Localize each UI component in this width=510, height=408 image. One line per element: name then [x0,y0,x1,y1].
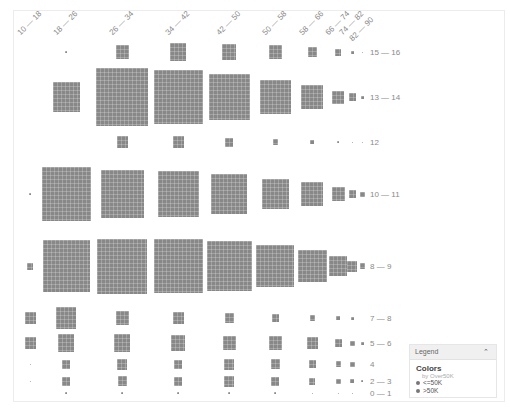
data-block[interactable] [174,377,182,386]
data-block[interactable] [352,142,353,143]
data-block[interactable] [308,47,317,57]
data-block[interactable] [335,49,341,56]
data-block[interactable] [118,376,127,386]
data-block[interactable] [307,337,318,349]
data-block[interactable] [312,393,313,394]
row-label: 8 — 9 [370,262,391,271]
data-block[interactable] [154,239,203,293]
data-block[interactable] [173,312,184,324]
data-block[interactable] [351,51,354,54]
legend-item-gt50k[interactable]: >50K [410,387,496,395]
data-block[interactable] [350,362,355,367]
data-block[interactable] [56,307,76,329]
data-block[interactable] [301,182,323,206]
data-block[interactable] [309,360,316,368]
data-block[interactable] [336,316,340,320]
data-block[interactable] [332,91,344,104]
data-block[interactable] [62,360,70,369]
legend-item-le50k[interactable]: <=50K [410,379,496,387]
data-block[interactable] [335,339,342,347]
data-block[interactable] [272,314,279,322]
data-block[interactable] [301,85,323,109]
data-block[interactable] [361,342,364,345]
data-block[interactable] [310,140,314,144]
data-block[interactable] [361,380,363,382]
data-block[interactable] [43,240,90,292]
data-block[interactable] [228,392,230,394]
data-block[interactable] [360,263,365,269]
data-block[interactable] [352,393,353,394]
data-block[interactable] [224,359,234,370]
data-block[interactable] [349,190,356,198]
data-block[interactable] [298,250,327,282]
row-label: 4 [370,360,374,369]
data-block[interactable] [350,379,354,383]
data-block[interactable] [209,74,250,120]
data-block[interactable] [271,359,280,369]
data-block[interactable] [117,136,128,148]
data-block[interactable] [42,167,91,221]
legend-header[interactable]: Legend ⌃ [410,345,496,360]
data-block[interactable] [25,312,36,324]
data-block[interactable] [225,138,233,147]
data-block[interactable] [332,187,345,201]
data-block[interactable] [27,263,33,270]
data-block[interactable] [25,337,36,349]
data-block[interactable] [62,377,70,386]
data-block[interactable] [114,334,130,352]
data-block[interactable] [361,96,364,99]
data-block[interactable] [30,381,31,382]
data-block[interactable] [338,393,339,394]
data-block[interactable] [349,93,356,101]
data-block[interactable] [271,377,279,386]
data-block[interactable] [96,68,148,126]
data-block[interactable] [360,192,365,197]
data-block[interactable] [154,70,203,124]
data-block[interactable] [58,334,74,352]
data-block[interactable] [211,174,247,214]
data-block[interactable] [269,45,282,59]
data-block[interactable] [347,261,357,272]
data-block[interactable] [30,364,31,365]
data-block[interactable] [310,315,315,321]
data-block[interactable] [223,336,236,350]
data-block[interactable] [362,52,363,53]
legend-dot-icon [416,389,420,393]
data-block[interactable] [222,44,236,60]
data-block[interactable] [350,341,355,346]
data-block[interactable] [170,43,186,61]
data-block[interactable] [101,170,144,218]
data-block[interactable] [260,80,291,114]
data-block[interactable] [274,392,276,394]
chevron-up-icon[interactable]: ⌃ [483,345,489,359]
data-block[interactable] [117,359,127,370]
legend-panel: Legend ⌃ Colors by Over50K <=50K >50K [409,344,497,398]
data-block[interactable] [256,245,294,287]
data-block[interactable] [65,51,67,53]
data-block[interactable] [121,392,123,394]
data-block[interactable] [262,179,289,209]
data-block[interactable] [97,239,147,294]
data-block[interactable] [336,361,341,367]
data-block[interactable] [116,311,129,325]
data-block[interactable] [65,392,67,394]
data-block[interactable] [337,141,339,143]
data-block[interactable] [224,376,234,387]
data-block[interactable] [362,142,363,143]
data-block[interactable] [351,317,354,320]
data-block[interactable] [329,256,347,276]
data-block[interactable] [336,379,341,384]
data-block[interactable] [158,171,199,217]
data-block[interactable] [309,378,315,385]
data-block[interactable] [171,335,185,351]
data-block[interactable] [225,313,234,323]
data-block[interactable] [177,392,179,394]
data-block[interactable] [53,82,80,112]
data-block[interactable] [174,360,182,369]
data-block[interactable] [173,136,184,148]
data-block[interactable] [29,193,31,195]
data-block[interactable] [116,45,129,59]
data-block[interactable] [273,139,278,145]
data-block[interactable] [269,336,282,350]
data-block[interactable] [207,241,252,291]
